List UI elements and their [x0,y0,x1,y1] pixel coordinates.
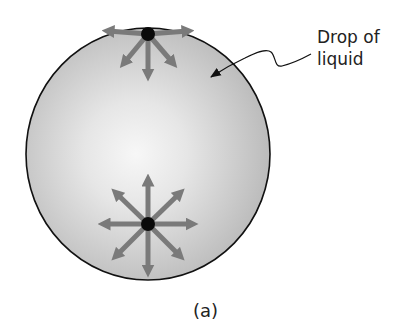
drop-label-line2: liquid [317,49,364,69]
drop-label-line1: Drop of [317,27,380,47]
surface-molecule-dot [141,27,155,41]
interior-molecule-dot [141,217,155,231]
figure-caption: (a) [193,300,218,322]
